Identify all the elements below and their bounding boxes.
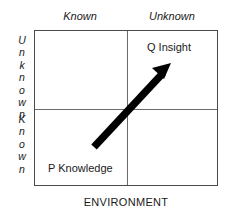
stacked-letter: K bbox=[14, 113, 30, 125]
stacked-letter: o bbox=[14, 84, 30, 96]
quadrant-label-q-insight: Q Insight bbox=[147, 41, 191, 54]
stacked-letter: n bbox=[14, 125, 30, 137]
quadrant-label-p-knowledge: P Knowledge bbox=[48, 162, 113, 175]
stacked-letter: n bbox=[14, 71, 30, 83]
column-header-unknown: Unknown bbox=[126, 10, 218, 23]
divider-vertical bbox=[127, 31, 128, 185]
stacked-letter: n bbox=[14, 163, 30, 175]
axis-label-environment: ENVIRONMENT bbox=[34, 196, 218, 209]
stacked-letter: k bbox=[14, 59, 30, 71]
stacked-letter: n bbox=[14, 46, 30, 58]
stacked-letter: w bbox=[14, 150, 30, 162]
divider-horizontal bbox=[35, 109, 217, 110]
row-label-known: Known bbox=[14, 113, 30, 175]
stacked-letter: o bbox=[14, 138, 30, 150]
column-header-known: Known bbox=[34, 10, 126, 23]
stacked-letter: w bbox=[14, 96, 30, 108]
stacked-letter: U bbox=[14, 34, 30, 46]
row-label-unknown: Unknown bbox=[14, 34, 30, 121]
quadrant-diagram: Known Unknown Unknown Known Q Insight P … bbox=[0, 0, 233, 218]
